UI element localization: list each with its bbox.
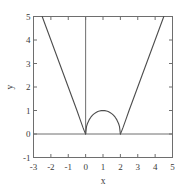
x-tick-label: 3 — [136, 162, 141, 172]
y-tick-label: 0 — [26, 129, 31, 139]
chart-figure: -3-2-1012345 -1012345 x y — [0, 0, 183, 188]
x-axis-tick-labels: -3-2-1012345 — [30, 162, 176, 172]
y-tick-label: 1 — [26, 106, 31, 116]
x-tick-label: 5 — [170, 162, 175, 172]
x-tick-label: 2 — [118, 162, 123, 172]
x-tick-label: 4 — [153, 162, 158, 172]
x-tick-label: 1 — [101, 162, 106, 172]
y-tick-label: -1 — [23, 153, 31, 163]
x-tick-label: -2 — [47, 162, 55, 172]
y-axis-title: y — [5, 84, 15, 89]
plot-canvas: -3-2-1012345 -1012345 x y — [0, 0, 183, 188]
y-tick-label: 5 — [26, 12, 31, 22]
y-tick-label: 4 — [26, 35, 31, 45]
x-tick-label: -3 — [30, 162, 38, 172]
x-tick-label: -1 — [65, 162, 73, 172]
x-axis-title: x — [101, 176, 106, 186]
y-tick-label: 2 — [26, 82, 31, 92]
x-tick-label: 0 — [83, 162, 88, 172]
y-tick-label: 3 — [26, 59, 31, 69]
